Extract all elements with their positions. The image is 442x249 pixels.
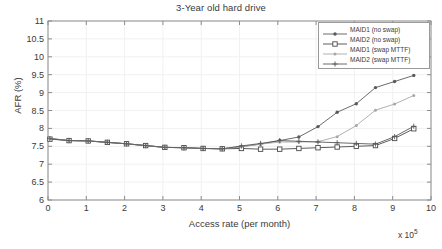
- legend-label: MAID2 (swap MTTF): [350, 55, 410, 65]
- data-point-marker: [335, 111, 338, 114]
- legend-marker-icon: [322, 25, 348, 35]
- data-point-marker: [278, 147, 282, 151]
- data-point-marker: [393, 80, 396, 83]
- data-point-marker: [297, 146, 301, 150]
- data-point-marker: [393, 103, 396, 106]
- data-point-marker: [258, 147, 262, 151]
- legend-marker-icon: [322, 35, 348, 45]
- data-point-marker: [355, 124, 358, 127]
- series-1: [48, 74, 415, 151]
- legend-item-1[interactable]: MAID1 (no swap): [322, 25, 426, 35]
- chart-legend: MAID1 (no swap)MAID2 (no swap)MAID1 (swa…: [318, 22, 430, 69]
- data-point-marker: [336, 135, 339, 138]
- data-point-marker: [332, 61, 337, 66]
- legend-marker-icon: [322, 45, 348, 55]
- data-point-marker: [258, 141, 263, 146]
- data-point-marker: [335, 145, 339, 149]
- series-line: [50, 95, 414, 148]
- data-point-marker: [374, 109, 377, 112]
- data-point-marker: [355, 102, 358, 105]
- data-point-marker: [297, 135, 300, 138]
- data-point-marker: [412, 94, 415, 97]
- data-point-marker: [296, 139, 301, 144]
- data-point-marker: [316, 146, 320, 150]
- legend-item-2[interactable]: MAID2 (no swap): [322, 35, 426, 45]
- legend-item-3[interactable]: MAID1 (swap MTTF): [322, 45, 426, 55]
- data-point-marker: [316, 125, 319, 128]
- series-line: [50, 75, 414, 148]
- data-point-marker: [412, 74, 415, 77]
- legend-label: MAID1 (no swap): [350, 25, 400, 35]
- legend-label: MAID1 (swap MTTF): [350, 45, 410, 55]
- legend-item-4[interactable]: MAID2 (swap MTTF): [322, 55, 426, 65]
- legend-label: MAID2 (no swap): [350, 35, 400, 45]
- chart-figure: 3-Year old hard drive AFR (%) Access rat…: [0, 0, 442, 249]
- series-4: [47, 124, 416, 152]
- legend-marker-icon: [322, 55, 348, 65]
- data-point-marker: [374, 86, 377, 89]
- series-line: [50, 126, 414, 149]
